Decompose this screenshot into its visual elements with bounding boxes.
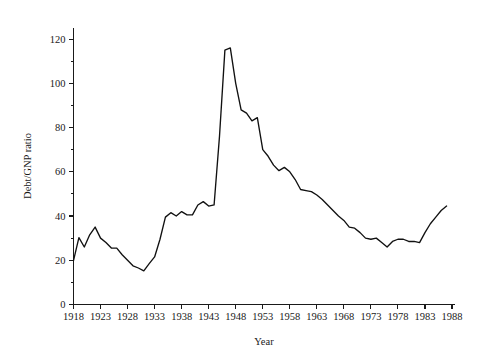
y-axis-ticks <box>69 39 74 304</box>
chart-figure: 020406080100120 191819231928193319381943… <box>0 0 482 361</box>
x-tick-label: 1923 <box>90 311 111 322</box>
x-tick-label: 1973 <box>360 311 381 322</box>
x-tick-label: 1958 <box>279 311 300 322</box>
debt-gnp-series-line <box>74 48 447 271</box>
y-tick-label: 20 <box>55 255 66 266</box>
y-tick-label: 0 <box>60 299 65 310</box>
x-tick-label: 1963 <box>306 311 327 322</box>
x-tick-label: 1968 <box>333 311 354 322</box>
x-tick-label: 1933 <box>144 311 165 322</box>
debt-gnp-line-chart: 020406080100120 191819231928193319381943… <box>0 0 482 361</box>
y-tick-label: 80 <box>55 122 66 133</box>
x-tick-label: 1983 <box>414 311 435 322</box>
x-tick-label: 1918 <box>63 311 84 322</box>
x-axis-title: Year <box>254 336 274 347</box>
x-tick-label: 1978 <box>387 311 408 322</box>
y-tick-label: 120 <box>50 34 66 45</box>
x-tick-label: 1938 <box>171 311 192 322</box>
x-tick-label: 1948 <box>225 311 246 322</box>
y-axis-tick-labels: 020406080100120 <box>50 34 66 310</box>
x-tick-label: 1928 <box>117 311 138 322</box>
x-axis-tick-labels: 1918192319281933193819431948195319581963… <box>63 311 463 322</box>
x-tick-label: 1953 <box>252 311 273 322</box>
x-tick-label: 1988 <box>442 311 463 322</box>
y-axis-title: Debt/GNP ratio <box>22 133 33 199</box>
x-axis-ticks <box>74 305 453 310</box>
x-tick-label: 1943 <box>198 311 219 322</box>
y-tick-label: 60 <box>55 166 66 177</box>
y-tick-label: 100 <box>50 78 66 89</box>
y-tick-label: 40 <box>55 211 66 222</box>
